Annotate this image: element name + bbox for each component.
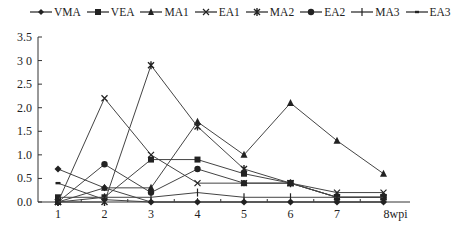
series-ma2 [55,61,387,206]
y-tick-label: 2.0 [17,101,32,115]
y-tick-label: 0.0 [17,195,32,209]
x-tick-label: 1 [55,207,61,221]
y-tick-label: 3.5 [17,30,32,44]
y-tick-label: 1.5 [17,124,32,138]
y-tick-label: 0.5 [17,171,32,185]
x-tick-label: 8wpi [384,207,409,221]
series-ma1 [55,99,388,205]
y-tick-label: 1.0 [17,148,32,162]
x-tick-label: 3 [148,207,154,221]
y-tick-label: 3 0 [17,54,32,68]
x-tick-label: 2 [102,207,108,221]
legend-label: EA3 [430,6,451,18]
x-tick-label: 5 [241,207,247,221]
x-tick-label: 4 [195,207,201,221]
x-tick-label: 7 [334,207,340,221]
x-tick-label: 6 [288,207,294,221]
y-tick-label: 2.5 [17,77,32,91]
